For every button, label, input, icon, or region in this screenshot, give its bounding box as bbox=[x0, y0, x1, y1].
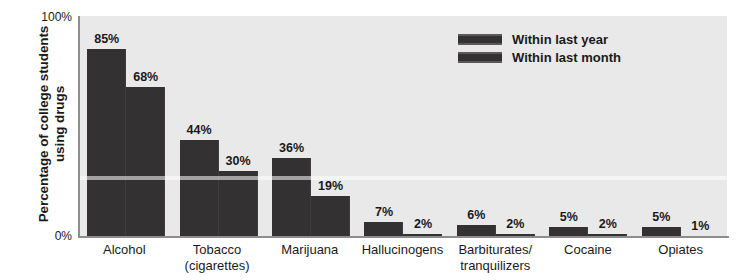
x-axis-category-label: Tobacco(cigarettes) bbox=[171, 242, 264, 273]
bar-value-label: 2% bbox=[414, 218, 432, 231]
legend-item-label: Within last year bbox=[512, 32, 608, 47]
bar-column: 36% bbox=[272, 16, 311, 238]
legend-item[interactable]: Within last month bbox=[458, 50, 621, 65]
bar-value-label: 85% bbox=[94, 33, 119, 46]
bar[interactable] bbox=[180, 140, 219, 238]
y-axis-title-line-1: Percentage of college students bbox=[36, 26, 51, 223]
x-axis-category-label-line-1: Marijuana bbox=[281, 242, 338, 257]
y-axis-title-line-2: using drugs bbox=[52, 9, 68, 239]
bar-value-label: 19% bbox=[318, 180, 343, 193]
bar-value-label: 1% bbox=[691, 220, 709, 233]
x-axis-category-label-line-1: Cocaine bbox=[564, 242, 612, 257]
x-axis-labels: AlcoholTobacco(cigarettes)MarijuanaHallu… bbox=[78, 242, 727, 273]
bar-group: 85%68% bbox=[80, 16, 172, 238]
x-axis-category-label-line-2: (cigarettes) bbox=[171, 258, 264, 274]
bar-value-label: 36% bbox=[279, 142, 304, 155]
plot-area: 85%68%44%30%36%19%7%2%6%2%5%2%5%1% bbox=[78, 16, 727, 238]
legend-item[interactable]: Within last year bbox=[458, 32, 621, 47]
bar-value-label: 7% bbox=[375, 206, 393, 219]
bar-column: 85% bbox=[87, 16, 126, 238]
chart-legend: Within last yearWithin last month bbox=[458, 32, 621, 65]
bar-column: 30% bbox=[219, 16, 258, 238]
x-axis-category-label: Marijuana bbox=[263, 242, 356, 273]
bar[interactable] bbox=[87, 49, 126, 238]
legend-item-label: Within last month bbox=[512, 50, 621, 65]
y-tick-label-100: 100% bbox=[26, 10, 72, 24]
x-axis-category-label-line-1: Alcohol bbox=[103, 242, 146, 257]
bar-column: 68% bbox=[126, 16, 165, 238]
bar-column: 44% bbox=[180, 16, 219, 238]
legend-swatch-icon bbox=[458, 34, 502, 45]
bar[interactable] bbox=[311, 196, 350, 238]
bar[interactable] bbox=[272, 158, 311, 238]
bar-value-label: 44% bbox=[187, 124, 212, 137]
bar-value-label: 68% bbox=[133, 71, 158, 84]
x-axis-category-label: Barbiturates/tranquilizers bbox=[449, 242, 542, 273]
x-axis-category-label-line-1: Barbiturates/ bbox=[458, 242, 532, 257]
x-axis-line bbox=[78, 236, 729, 238]
bar-group: 7%2% bbox=[357, 16, 449, 238]
bar[interactable] bbox=[126, 87, 165, 238]
x-axis-category-label-line-1: Tobacco bbox=[193, 242, 241, 257]
x-axis-category-label-line-1: Opiates bbox=[658, 242, 703, 257]
x-axis-category-label: Opiates bbox=[634, 242, 727, 273]
bar-groups: 85%68%44%30%36%19%7%2%6%2%5%2%5%1% bbox=[80, 16, 727, 238]
y-axis-title: Percentage of college students using dru… bbox=[36, 9, 68, 239]
x-axis-category-label: Cocaine bbox=[542, 242, 635, 273]
bar-value-label: 2% bbox=[599, 218, 617, 231]
x-axis-category-label: Alcohol bbox=[78, 242, 171, 273]
bar-value-label: 5% bbox=[560, 211, 578, 224]
bar-column: 7% bbox=[364, 16, 403, 238]
x-axis-category-label-line-1: Hallucinogens bbox=[362, 242, 444, 257]
bar-group: 5%1% bbox=[635, 16, 727, 238]
bar-column: 2% bbox=[403, 16, 442, 238]
x-axis-category-label-line-2: tranquilizers bbox=[449, 258, 542, 274]
bar-column: 1% bbox=[681, 16, 720, 238]
legend-swatch-icon bbox=[458, 52, 502, 63]
bar-value-label: 5% bbox=[652, 211, 670, 224]
bar[interactable] bbox=[219, 171, 258, 238]
x-axis-category-label: Hallucinogens bbox=[356, 242, 449, 273]
bar-value-label: 6% bbox=[467, 209, 485, 222]
bar-column: 19% bbox=[311, 16, 350, 238]
bar-value-label: 30% bbox=[226, 155, 251, 168]
bar-chart-figure: Percentage of college students using dru… bbox=[0, 0, 742, 280]
bar-group: 44%30% bbox=[172, 16, 264, 238]
bar-value-label: 2% bbox=[506, 218, 524, 231]
bar-group: 36%19% bbox=[265, 16, 357, 238]
bar-column: 5% bbox=[642, 16, 681, 238]
y-tick-label-0: 0% bbox=[26, 229, 72, 243]
